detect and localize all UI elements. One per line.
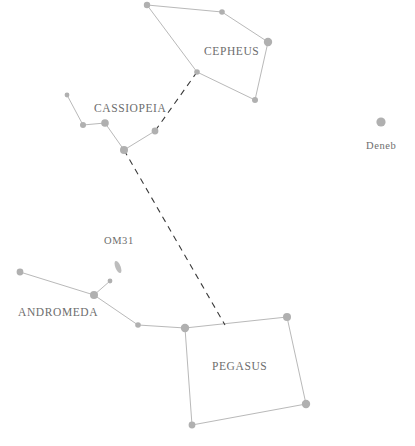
- andromeda-star-3[interactable]: [135, 322, 141, 328]
- andromeda-star-4[interactable]: [108, 279, 113, 284]
- constellation-label-andromeda: ANDROMEDA: [18, 306, 98, 318]
- cepheus-line-1: [147, 5, 222, 12]
- pegasus-star-4[interactable]: [189, 422, 196, 429]
- cepheus-star-5[interactable]: [194, 69, 200, 75]
- cassiopeia-star-4[interactable]: [120, 146, 128, 154]
- andromeda-star-1[interactable]: [17, 269, 24, 276]
- cepheus-line-2: [222, 12, 268, 42]
- pegasus-line-3: [192, 404, 306, 425]
- constellation-label-cassiopeia: CASSIOPEIA: [94, 102, 166, 114]
- constellation-label-pegasus: PEGASUS: [212, 360, 267, 372]
- cassiopeia-line-3: [105, 123, 124, 150]
- cepheus-line-4: [197, 72, 255, 100]
- cassiopeia-star-5[interactable]: [152, 128, 159, 135]
- cassiopeia-star-3[interactable]: [101, 119, 109, 127]
- cassiopeia-to-pegasus-pointer: [124, 150, 225, 325]
- star-chart: CEPHEUSCASSIOPEIAANDROMEDAPEGASUSOM31Den…: [0, 0, 415, 446]
- cepheus-star-2[interactable]: [219, 9, 225, 15]
- andromeda-line-2: [94, 295, 138, 325]
- sky-canvas: [0, 0, 415, 446]
- andromeda-to-pegasus: [138, 325, 185, 328]
- pegasus-line-1: [185, 317, 287, 328]
- galaxy-group: [113, 260, 123, 274]
- andromeda-line-1: [20, 272, 94, 295]
- cepheus-line-5: [147, 5, 197, 72]
- constellation-label-cepheus: CEPHEUS: [204, 45, 259, 57]
- pegasus-star-3[interactable]: [302, 400, 310, 408]
- bridge-lines-group: [138, 325, 185, 328]
- andromeda-star-2[interactable]: [90, 291, 98, 299]
- cassiopeia-line-1: [67, 95, 83, 125]
- pegasus-line-2: [287, 317, 306, 404]
- cepheus-star-4[interactable]: [252, 97, 258, 103]
- cepheus-star-1[interactable]: [144, 2, 150, 8]
- galaxy-m31-shape[interactable]: [113, 260, 123, 274]
- cassiopeia-star-1[interactable]: [65, 93, 70, 98]
- star-deneb[interactable]: [376, 117, 385, 126]
- star-label-deneb: Deneb: [366, 140, 396, 151]
- pegasus-star-2[interactable]: [283, 313, 291, 321]
- stars-group: [17, 2, 386, 429]
- pegasus-line-4: [185, 328, 192, 425]
- galaxy-label-m31: OM31: [104, 235, 134, 246]
- cassiopeia-line-4: [124, 131, 155, 150]
- pegasus-star-1[interactable]: [181, 324, 189, 332]
- cassiopeia-star-2[interactable]: [80, 122, 86, 128]
- cepheus-star-3[interactable]: [264, 38, 272, 46]
